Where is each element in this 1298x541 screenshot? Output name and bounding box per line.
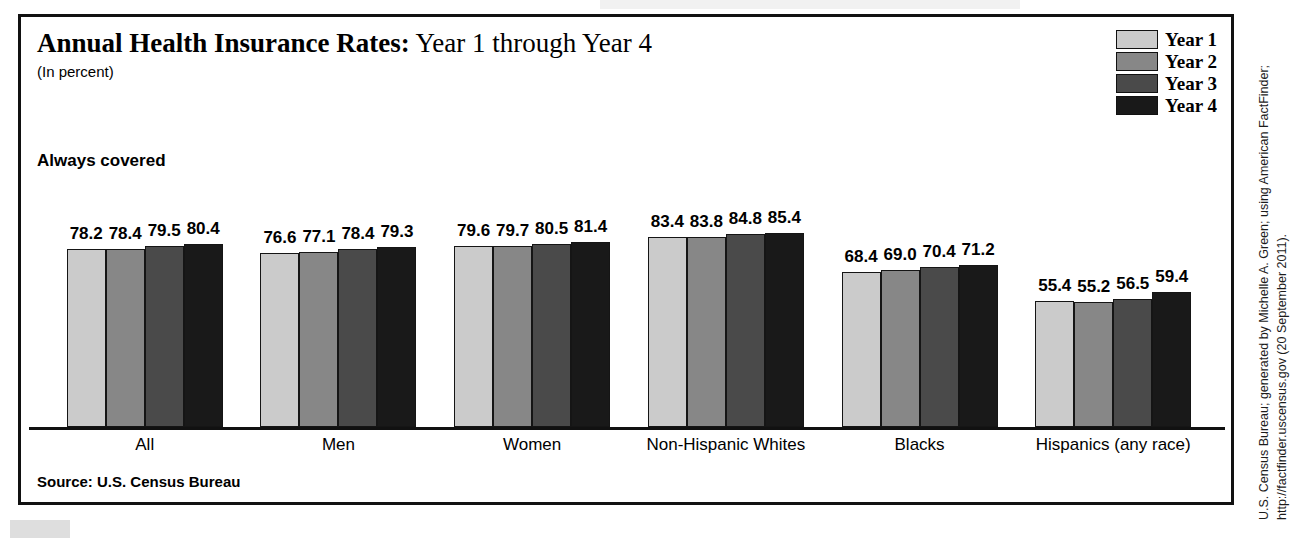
chart-baseline-axis [29, 427, 1225, 430]
bar-value-label: 77.1 [302, 227, 335, 247]
legend-label-year-3: Year 3 [1165, 74, 1217, 93]
source-note: Source: U.S. Census Bureau [37, 473, 240, 490]
bar-group: 79.679.780.581.4 [454, 187, 610, 427]
legend-swatch-year-4 [1116, 96, 1158, 115]
bar [1113, 299, 1152, 427]
title-block: Annual Health Insurance Rates: Year 1 th… [37, 27, 652, 80]
bar-column: 68.4 [842, 187, 881, 427]
bar [1035, 301, 1074, 427]
bar [959, 265, 998, 427]
bar-value-label: 83.8 [690, 212, 723, 232]
bar-column: 80.4 [184, 187, 223, 427]
bar-group: 76.677.178.479.3 [260, 187, 416, 427]
legend-swatch-year-3 [1116, 74, 1158, 93]
chart-plot-area: 78.278.479.580.476.677.178.479.379.679.7… [29, 187, 1229, 427]
page-canvas: Annual Health Insurance Rates: Year 1 th… [0, 0, 1298, 541]
bar-column: 83.4 [648, 187, 687, 427]
chart-figure-frame: Annual Health Insurance Rates: Year 1 th… [18, 14, 1234, 505]
bar-column: 79.7 [493, 187, 532, 427]
chart-title-light: Year 1 through Year 4 [416, 28, 653, 58]
bar-column: 79.3 [377, 187, 416, 427]
bar-column: 59.4 [1152, 187, 1191, 427]
bar-value-label: 78.4 [341, 224, 374, 244]
bar [1074, 302, 1113, 427]
bar-column: 71.2 [959, 187, 998, 427]
bar-value-label: 80.5 [535, 219, 568, 239]
bar-column: 83.8 [687, 187, 726, 427]
bar [299, 252, 338, 427]
bar-value-label: 71.2 [962, 240, 995, 260]
bar [765, 233, 804, 427]
bar-column: 76.6 [260, 187, 299, 427]
credit-margin-note: U.S. Census Bureau; generated by Michell… [1243, 10, 1293, 530]
bar-value-label: 79.3 [380, 222, 413, 242]
bar-group: 55.455.256.559.4 [1035, 187, 1191, 427]
bar-value-label: 79.7 [496, 221, 529, 241]
bar [260, 253, 299, 427]
bar [106, 249, 145, 427]
chart-subtitle: (In percent) [37, 63, 652, 80]
bar [920, 267, 959, 427]
legend-item-year-1: Year 1 [1116, 29, 1217, 50]
credit-line-2: http://factfinder.uscensus.gov (20 Septe… [1275, 234, 1289, 520]
bar [338, 249, 377, 427]
legend-swatch-year-2 [1116, 52, 1158, 71]
bar-group: 78.278.479.580.4 [67, 187, 223, 427]
bar-value-label: 59.4 [1155, 267, 1188, 287]
bar-value-label: 84.8 [729, 209, 762, 229]
bar-column: 78.4 [106, 187, 145, 427]
bar-column: 81.4 [571, 187, 610, 427]
bar [881, 270, 920, 427]
bar [67, 249, 106, 427]
bar-column: 85.4 [765, 187, 804, 427]
bar [1152, 292, 1191, 427]
bar-value-label: 55.4 [1038, 276, 1071, 296]
bar [454, 246, 493, 427]
bar-column: 78.4 [338, 187, 377, 427]
scan-artifact-top [600, 0, 1020, 9]
bar-column: 79.5 [145, 187, 184, 427]
bar-group: 83.483.884.885.4 [648, 187, 804, 427]
chart-title-strong: Annual Health Insurance Rates: [37, 28, 410, 58]
chart-category-axis: AllMenWomenNon-Hispanic WhitesBlacksHisp… [29, 435, 1229, 465]
bar-column: 77.1 [299, 187, 338, 427]
legend-label-year-1: Year 1 [1165, 30, 1217, 49]
bar [493, 246, 532, 427]
scan-artifact-bottom [10, 520, 70, 538]
bar-value-label: 79.6 [457, 221, 490, 241]
bar-value-label: 76.6 [263, 228, 296, 248]
bar [571, 242, 610, 427]
bar [532, 244, 571, 427]
bar-column: 56.5 [1113, 187, 1152, 427]
bar-value-label: 78.2 [70, 224, 103, 244]
bar [687, 237, 726, 427]
bar-column: 55.4 [1035, 187, 1074, 427]
bar [145, 246, 184, 427]
bar [726, 234, 765, 427]
bar-value-label: 79.5 [148, 221, 181, 241]
bar-column: 70.4 [920, 187, 959, 427]
page-title: Annual Health Insurance Rates: Year 1 th… [37, 27, 652, 59]
legend-item-year-3: Year 3 [1116, 73, 1217, 94]
bar-value-label: 83.4 [651, 212, 684, 232]
bar-value-label: 69.0 [884, 245, 917, 265]
bar-group: 68.469.070.471.2 [842, 187, 998, 427]
legend-label-year-2: Year 2 [1165, 52, 1217, 71]
bar-value-label: 80.4 [187, 219, 220, 239]
chart-legend: Year 1 Year 2 Year 3 Year 4 [1116, 29, 1217, 116]
bar [184, 244, 223, 427]
bar [377, 247, 416, 427]
bar-value-label: 56.5 [1116, 274, 1149, 294]
bar [842, 272, 881, 427]
category-label: Hispanics (any race) [975, 435, 1251, 455]
credit-line-1: U.S. Census Bureau; generated by Michell… [1257, 65, 1271, 520]
legend-swatch-year-1 [1116, 30, 1158, 49]
legend-label-year-4: Year 4 [1165, 96, 1217, 115]
bar-value-label: 68.4 [845, 247, 878, 267]
bar-column: 79.6 [454, 187, 493, 427]
bar-column: 69.0 [881, 187, 920, 427]
bar-value-label: 85.4 [768, 208, 801, 228]
legend-item-year-2: Year 2 [1116, 51, 1217, 72]
bar-column: 55.2 [1074, 187, 1113, 427]
bar-column: 84.8 [726, 187, 765, 427]
